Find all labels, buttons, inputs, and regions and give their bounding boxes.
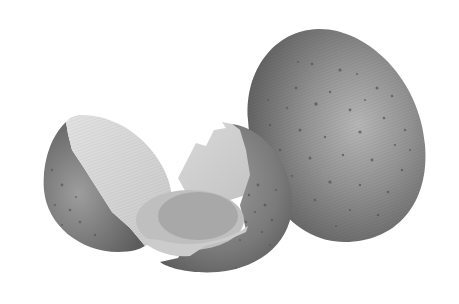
eggs-illustration [0, 0, 459, 304]
egg-yolk [158, 192, 238, 240]
